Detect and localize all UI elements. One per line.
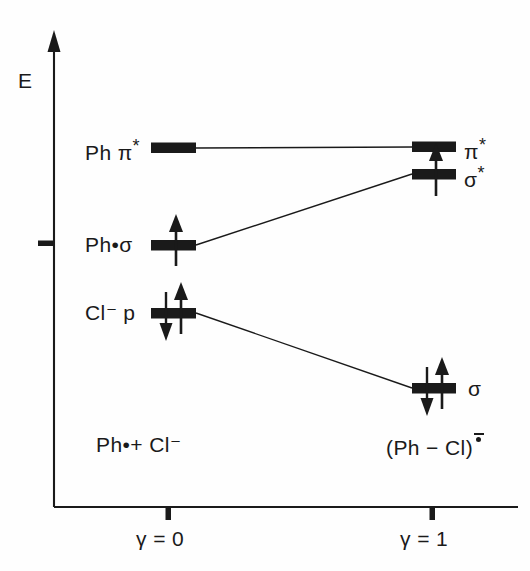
- level-bar-cl-p: [151, 308, 196, 319]
- level-label-ph-pi-star-asterisk: *: [133, 136, 140, 156]
- correlation-line-sigma: [196, 313, 412, 388]
- level-label-cl-p-text: Cl⁻ p: [85, 301, 135, 324]
- level-label-sigma-star: σ*: [464, 164, 484, 190]
- correlation-line-pi-star: [196, 147, 412, 148]
- level-label-sigma-text: σ: [468, 377, 481, 400]
- correlation-lines: [196, 147, 412, 388]
- level-label-ph-pi-star: Ph π*: [85, 137, 140, 163]
- level-label-pi-star: π*: [464, 136, 486, 162]
- level-label-ph-pi-star-text: Ph π: [85, 141, 133, 164]
- level-label-ph-sigma-text: Ph•σ: [85, 233, 133, 256]
- species-label-right: (Ph − Cl): [386, 434, 485, 458]
- radical-anion-superscript: [473, 434, 485, 455]
- level-label-sigma-star-asterisk: *: [477, 163, 484, 183]
- level-label-sigma-star-text: σ: [464, 168, 477, 191]
- level-bar-sigma-star: [412, 169, 456, 180]
- level-label-ph-sigma: Ph•σ: [85, 234, 133, 255]
- level-bar-sigma: [412, 383, 456, 394]
- level-label-cl-p: Cl⁻ p: [85, 302, 135, 323]
- x-axis-tick-gamma-1: [430, 507, 436, 520]
- level-bar-ph-pi-star: [151, 143, 196, 154]
- x-tick-label-gamma-0: γ = 0: [136, 528, 184, 549]
- x-axis-tick-gamma-0: [166, 507, 172, 520]
- level-bar-ph-sigma: [151, 240, 196, 251]
- mo-correlation-diagram: E Ph π* Ph•σ Cl⁻ p π* σ* σ Ph•+ Cl⁻ (Ph …: [0, 0, 530, 571]
- correlation-line-sigma-star: [196, 174, 412, 245]
- energy-axis: [38, 30, 61, 507]
- reaction-coordinate-axis: [54, 507, 518, 520]
- species-label-left-text: Ph•+ Cl⁻: [96, 433, 181, 456]
- diagram-canvas: [0, 0, 530, 571]
- species-label-right-body: (Ph − Cl): [386, 436, 473, 459]
- energy-axis-tick: [38, 241, 54, 247]
- energy-axis-label: E: [18, 70, 32, 91]
- x-tick-label-gamma-1: γ = 1: [400, 528, 448, 549]
- species-label-left: Ph•+ Cl⁻: [96, 434, 181, 455]
- level-label-pi-star-text: π: [464, 140, 479, 163]
- level-label-sigma: σ: [468, 378, 481, 399]
- level-label-pi-star-asterisk: *: [479, 135, 486, 155]
